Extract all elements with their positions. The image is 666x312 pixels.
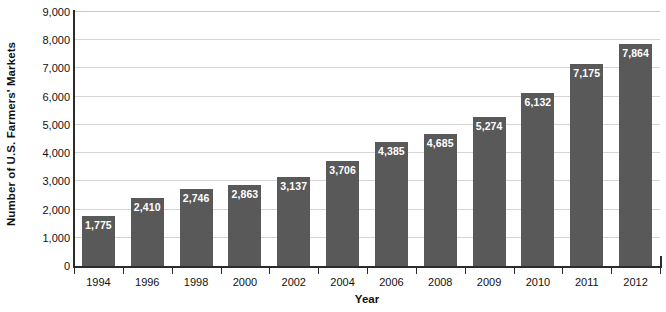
- x-axis-tick: [465, 268, 466, 274]
- bar-value-label: 4,685: [424, 138, 457, 149]
- x-axis-tick: [123, 268, 124, 274]
- bar-group[interactable]: 1,775: [82, 12, 115, 266]
- bar-group[interactable]: 7,175: [570, 12, 603, 266]
- bar-value-label: 1,775: [82, 220, 115, 231]
- y-axis-tick-label: 2,000: [22, 204, 70, 215]
- bar-group[interactable]: 4,385: [375, 12, 408, 266]
- bar[interactable]: 6,132: [521, 93, 554, 266]
- bar-value-label: 6,132: [521, 97, 554, 108]
- x-axis-tick-label: 2006: [379, 276, 403, 289]
- bar[interactable]: 3,137: [277, 177, 310, 266]
- x-axis-tick-label: 1996: [135, 276, 159, 289]
- bar-value-label: 2,746: [180, 193, 213, 204]
- x-axis-end-cap: [660, 256, 662, 268]
- bar[interactable]: 3,706: [326, 161, 359, 266]
- bar-chart: Number of U.S. Farmers' Markets 01,0002,…: [0, 0, 666, 312]
- bar[interactable]: 4,385: [375, 142, 408, 266]
- bar[interactable]: 7,864: [619, 44, 652, 266]
- y-axis-tick-label: 7,000: [22, 63, 70, 74]
- y-axis-tick-label: 3,000: [22, 176, 70, 187]
- x-axis-tick-label: 1994: [86, 276, 110, 289]
- y-axis-tick-label: 8,000: [22, 35, 70, 46]
- x-axis-tick-label: 2004: [330, 276, 354, 289]
- x-axis-tick-label: 2002: [282, 276, 306, 289]
- bar[interactable]: 7,175: [570, 64, 603, 266]
- bar-value-label: 3,137: [277, 181, 310, 192]
- x-axis-tick-label: 2010: [526, 276, 550, 289]
- y-axis-tick-label: 4,000: [22, 148, 70, 159]
- bar[interactable]: 2,863: [228, 185, 261, 266]
- x-axis-tick-labels: 1994199619982000200220042006200820092010…: [74, 276, 660, 292]
- bar-group[interactable]: 4,685: [424, 12, 457, 266]
- y-axis-tick-label: 6,000: [22, 91, 70, 102]
- bar[interactable]: 5,274: [473, 117, 506, 266]
- x-axis-tick: [416, 268, 417, 274]
- bar-group[interactable]: 3,706: [326, 12, 359, 266]
- bar[interactable]: 2,746: [180, 189, 213, 266]
- x-axis-tick-label: 2012: [623, 276, 647, 289]
- x-axis-tick: [562, 268, 563, 274]
- bar[interactable]: 1,775: [82, 216, 115, 266]
- bar-group[interactable]: 7,864: [619, 12, 652, 266]
- bar-value-label: 7,175: [570, 68, 603, 79]
- x-axis-tick: [172, 268, 173, 274]
- bar-group[interactable]: 5,274: [473, 12, 506, 266]
- bars-layer: 1,7752,4102,7462,8633,1373,7064,3854,685…: [74, 12, 660, 266]
- y-axis-tick-labels: 01,0002,0003,0004,0005,0006,0007,0008,00…: [22, 0, 70, 280]
- bar-group[interactable]: 6,132: [521, 12, 554, 266]
- x-axis-title: Year: [74, 293, 660, 305]
- y-axis-title: Number of U.S. Farmers' Markets: [0, 0, 22, 268]
- x-axis-tick: [514, 268, 515, 274]
- bar-group[interactable]: 2,746: [180, 12, 213, 266]
- bar-value-label: 7,864: [619, 48, 652, 59]
- x-axis-tick-label: 2009: [477, 276, 501, 289]
- x-axis-tick: [611, 268, 612, 274]
- bar-value-label: 4,385: [375, 146, 408, 157]
- x-axis-tick: [318, 268, 319, 274]
- bar-value-label: 2,863: [228, 189, 261, 200]
- x-axis-tick: [660, 268, 661, 274]
- x-axis-tick-label: 2008: [428, 276, 452, 289]
- bar-value-label: 2,410: [131, 202, 164, 213]
- bar-value-label: 3,706: [326, 165, 359, 176]
- x-axis-tick: [367, 268, 368, 274]
- x-axis-tick: [74, 268, 75, 274]
- bar[interactable]: 4,685: [424, 134, 457, 266]
- y-axis-title-text: Number of U.S. Farmers' Markets: [5, 42, 17, 226]
- x-axis-tick-label: 2000: [233, 276, 257, 289]
- bar-group[interactable]: 3,137: [277, 12, 310, 266]
- y-axis-tick-label: 0: [22, 261, 70, 272]
- x-axis-tick-label: 1998: [184, 276, 208, 289]
- bar-group[interactable]: 2,410: [131, 12, 164, 266]
- x-axis-ticks: [74, 268, 660, 276]
- bar-group[interactable]: 2,863: [228, 12, 261, 266]
- bar[interactable]: 2,410: [131, 198, 164, 266]
- y-axis-tick-label: 1,000: [22, 232, 70, 243]
- x-axis-tick-label: 2011: [575, 276, 599, 289]
- x-axis-tick: [269, 268, 270, 274]
- y-axis-tick-label: 5,000: [22, 119, 70, 130]
- x-axis-tick: [221, 268, 222, 274]
- bar-value-label: 5,274: [473, 121, 506, 132]
- y-axis-tick-label: 9,000: [22, 7, 70, 18]
